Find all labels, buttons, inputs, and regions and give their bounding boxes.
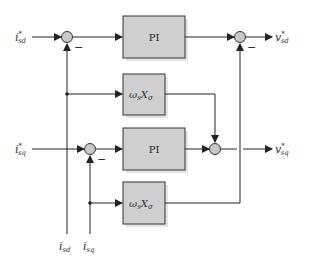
decoupling-block-q: ωsXσ bbox=[123, 182, 165, 224]
label-vsq-ref: v*sq bbox=[275, 142, 289, 157]
dq-current-controller-diagram: PI ωsXσ PI ωsXσ bbox=[0, 0, 310, 263]
minus-sign-d-error: − bbox=[74, 41, 83, 54]
label-isq-ref: i*sq bbox=[15, 142, 27, 157]
summing-junction-q-error bbox=[85, 144, 96, 155]
branch-dot-isd bbox=[65, 92, 69, 96]
label-isq-feedback: isq bbox=[83, 240, 95, 254]
branch-dot-isq bbox=[88, 201, 92, 205]
label-vsd-ref: v*sd bbox=[275, 30, 289, 45]
pi-block-q: PI bbox=[123, 128, 185, 170]
minus-sign-d-output: − bbox=[247, 41, 256, 54]
label-isd-ref: i*sd bbox=[15, 30, 27, 45]
decoupling-block-d: ωsXσ bbox=[123, 74, 165, 115]
summing-junction-d-error bbox=[62, 32, 73, 43]
pi-block-q-label: PI bbox=[149, 144, 160, 155]
label-isd-feedback: isd bbox=[59, 240, 71, 254]
summing-junction-d-output bbox=[235, 32, 246, 43]
summing-junction-q-output bbox=[210, 144, 221, 155]
pi-block-d: PI bbox=[123, 16, 185, 58]
pi-block-d-label: PI bbox=[149, 32, 160, 43]
minus-sign-q-error: − bbox=[97, 153, 106, 166]
decouple-q-out-line bbox=[165, 44, 240, 203]
